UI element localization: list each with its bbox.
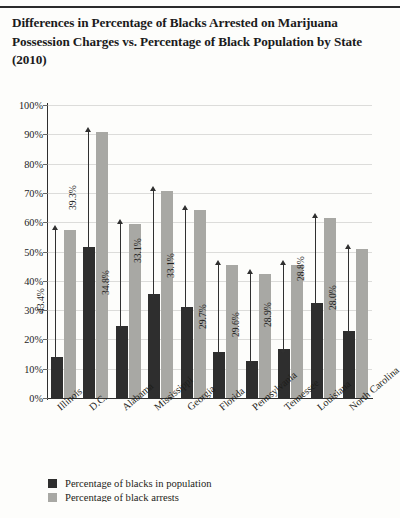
chart-legend: Percentage of blacks in population Perce… bbox=[48, 474, 378, 502]
difference-arrow bbox=[185, 210, 186, 307]
bar-arrests bbox=[96, 132, 108, 398]
y-axis-tick-label: 0% bbox=[3, 393, 43, 404]
bar-population bbox=[51, 357, 63, 398]
y-axis-tick-mark bbox=[43, 105, 48, 106]
difference-label: 34.8% bbox=[100, 270, 111, 295]
difference-label: 28.9% bbox=[262, 302, 273, 327]
bar-group: 28.0% bbox=[343, 105, 368, 398]
y-axis-tick-mark bbox=[43, 369, 48, 370]
difference-label: 29.6% bbox=[230, 312, 241, 337]
difference-arrow bbox=[315, 218, 316, 302]
difference-label: 33.1% bbox=[132, 238, 143, 263]
legend-label-population: Percentage of blacks in population bbox=[65, 478, 212, 489]
y-axis-tick-mark bbox=[43, 310, 48, 311]
legend-item-arrests: Percentage of black arrests bbox=[48, 492, 378, 502]
bar-group: 29.7% bbox=[213, 105, 238, 398]
difference-arrow bbox=[120, 224, 121, 326]
y-axis-tick-label: 10% bbox=[3, 363, 43, 374]
difference-arrow bbox=[250, 274, 251, 361]
difference-label: 28.0% bbox=[327, 285, 338, 310]
bar-group: 39.3% bbox=[83, 105, 108, 398]
legend-swatch-population bbox=[48, 479, 57, 488]
bar-population bbox=[116, 326, 128, 398]
chart-page: Differences in Percentage of Blacks Arre… bbox=[0, 0, 400, 518]
difference-arrow bbox=[348, 249, 349, 331]
bar-group: 43.4% bbox=[51, 105, 76, 398]
difference-label: 28.8% bbox=[295, 256, 306, 281]
y-axis-tick-mark bbox=[43, 339, 48, 340]
bar-arrests bbox=[161, 191, 173, 398]
y-axis-tick-label: 30% bbox=[3, 305, 43, 316]
bar-group: 29.6% bbox=[246, 105, 271, 398]
difference-arrow bbox=[55, 230, 56, 357]
y-axis-tick-label: 70% bbox=[3, 187, 43, 198]
y-axis-tick-label: 100% bbox=[3, 100, 43, 111]
y-axis-tick-mark bbox=[43, 134, 48, 135]
header-rule bbox=[0, 6, 400, 8]
difference-arrow bbox=[153, 191, 154, 294]
y-axis-tick-label: 20% bbox=[3, 334, 43, 345]
bar-arrests bbox=[356, 249, 368, 398]
bar-arrests bbox=[259, 274, 271, 398]
bar-population bbox=[83, 247, 95, 398]
y-axis-tick-label: 40% bbox=[3, 275, 43, 286]
page-title: Differences in Percentage of Blacks Arre… bbox=[12, 14, 388, 70]
y-axis-tick-label: 80% bbox=[3, 158, 43, 169]
bar-group: 28.9% bbox=[278, 105, 303, 398]
bar-group: 28.8% bbox=[311, 105, 336, 398]
y-axis-tick-label: 90% bbox=[3, 129, 43, 140]
legend-item-population: Percentage of blacks in population bbox=[48, 474, 378, 492]
bar-group: 33.1% bbox=[181, 105, 206, 398]
difference-label: 29.7% bbox=[197, 304, 208, 329]
difference-arrow bbox=[88, 132, 89, 247]
bar-arrests bbox=[64, 230, 76, 398]
y-axis-tick-mark bbox=[43, 164, 48, 165]
plot-area: 43.4%39.3%34.8%33.1%33.1%29.7%29.6%28.9%… bbox=[47, 105, 372, 398]
y-axis-tick-mark bbox=[43, 398, 48, 399]
difference-arrow bbox=[283, 265, 284, 350]
y-axis-tick-mark bbox=[43, 222, 48, 223]
difference-arrow bbox=[218, 265, 219, 352]
y-axis-tick-mark bbox=[43, 252, 48, 253]
legend-swatch-arrests bbox=[48, 493, 57, 502]
y-axis-tick-label: 60% bbox=[3, 217, 43, 228]
bar-population bbox=[246, 361, 258, 399]
y-axis-tick-label: 50% bbox=[3, 246, 43, 257]
legend-label-arrests: Percentage of black arrests bbox=[65, 492, 179, 502]
bar-chart: 43.4%39.3%34.8%33.1%33.1%29.7%29.6%28.9%… bbox=[0, 98, 400, 408]
difference-label: 33.1% bbox=[165, 253, 176, 278]
y-axis-tick-mark bbox=[43, 281, 48, 282]
difference-label: 39.3% bbox=[67, 185, 78, 210]
bar-group: 33.1% bbox=[148, 105, 173, 398]
y-axis-tick-mark bbox=[43, 193, 48, 194]
